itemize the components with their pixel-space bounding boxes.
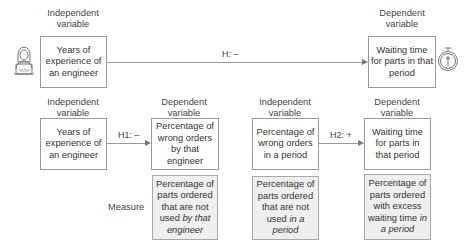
box-text: Years of experience of an engineer <box>43 127 104 162</box>
hypothesis-label-h2: H2: + <box>330 130 352 140</box>
label-line: Independent <box>38 97 108 108</box>
dependent-variable-label-h1: Dependent variable <box>149 97 219 119</box>
label-line: Dependent <box>362 97 432 108</box>
box-text: Percentage of wrong orders in a period <box>255 127 316 162</box>
measure-text: Percentage of parts ordered that are not… <box>155 179 215 237</box>
measure-label: Measure <box>108 202 148 213</box>
stopwatch-icon <box>437 46 459 72</box>
svg-text:</>: </> <box>19 67 29 73</box>
label-line: Dependent <box>366 8 438 19</box>
dependent-variable-box-h1: Percentage of wrong orders by that engin… <box>151 118 219 170</box>
hypothesis-arrow-line-h2 <box>319 143 358 144</box>
hypothesis-label-h1: H1: – <box>118 130 140 140</box>
dependent-measure-box-h2: Percentage of parts ordered with excess … <box>364 174 431 240</box>
dependent-variable-box-h2: Waiting time for parts in that period <box>364 118 431 170</box>
label-line: Dependent <box>149 97 219 108</box>
measure-text-plain: Percentage of parts ordered with excess … <box>368 178 426 223</box>
hypothesis-arrow-line-h1 <box>107 143 145 144</box>
measure-text: Percentage of parts ordered that are not… <box>255 179 316 237</box>
engineer-laptop-icon: </> <box>12 44 36 76</box>
box-text: Years of experience of an engineer <box>43 45 104 80</box>
label-line: variable <box>366 19 438 30</box>
independent-variable-box-h1: Years of experience of an engineer <box>40 118 107 170</box>
independent-variable-label-h2: Independent variable <box>250 97 320 119</box>
hypothesis-arrow-line-top <box>107 62 363 63</box>
independent-variable-box-h2: Percentage of wrong orders in a period <box>252 118 319 170</box>
box-text: Percentage of wrong orders by that engin… <box>154 121 216 167</box>
independent-variable-box-top: Years of experience of an engineer <box>40 36 107 88</box>
hypothesis-label-top: H: – <box>222 49 239 59</box>
dependent-variable-box-top: Waiting time for parts in that period <box>368 36 436 88</box>
independent-variable-label-top: Independent variable <box>38 8 108 30</box>
dependent-variable-label-h2: Dependent variable <box>362 97 432 119</box>
label-line: Independent <box>250 97 320 108</box>
box-text: Waiting time for parts in that period <box>371 45 433 80</box>
box-text: Waiting time for parts in that period <box>367 127 428 162</box>
label-line: variable <box>38 19 108 30</box>
measure-box-h1: Percentage of parts ordered that are not… <box>152 175 218 240</box>
label-line: Independent <box>38 8 108 19</box>
measure-text-plain: Percentage of parts ordered that are not… <box>257 179 315 224</box>
dependent-variable-label-top: Dependent variable <box>366 8 438 30</box>
independent-variable-label-h1: Independent variable <box>38 97 108 119</box>
measure-text: Percentage of parts ordered with excess … <box>367 178 428 236</box>
independent-measure-box-h2: Percentage of parts ordered that are not… <box>252 176 319 240</box>
